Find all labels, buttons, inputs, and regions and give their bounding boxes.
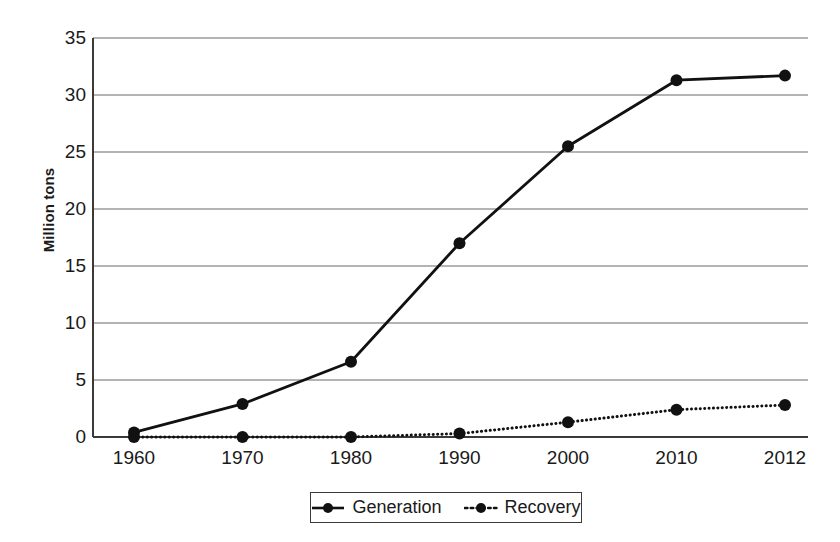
legend-swatch-dotted-icon [464,500,498,516]
x-axis-tick-label: 1980 [311,447,391,469]
data-series-layer [128,70,791,443]
data-point-marker [345,356,357,368]
data-point-marker [562,140,574,152]
chart-container: Million tons 05101520253035 196019701980… [0,0,840,542]
data-point-marker [237,431,249,443]
legend-label-generation: Generation [352,497,441,518]
data-point-marker [671,74,683,86]
data-point-marker [454,428,466,440]
x-axis-tick-label: 1990 [420,447,500,469]
x-axis-tick-label: 1960 [94,447,174,469]
series-generation [128,70,791,439]
x-axis-tick-label: 2012 [745,447,825,469]
legend-entry-recovery[interactable]: Recovery [464,497,581,518]
legend-entry-generation[interactable]: Generation [311,497,441,518]
data-point-marker [779,70,791,82]
chart-legend: Generation Recovery [310,492,582,523]
series-line [134,76,785,433]
data-point-marker [237,398,249,410]
legend-label-recovery: Recovery [505,497,581,518]
x-axis-tick-label: 2010 [637,447,717,469]
legend-swatch-solid-icon [311,500,345,516]
x-axis-tick-label: 2000 [528,447,608,469]
data-point-marker [671,404,683,416]
data-point-marker [454,237,466,249]
data-point-marker [128,431,140,443]
data-point-marker [562,416,574,428]
x-axis-tick-label: 1970 [203,447,283,469]
data-point-marker [779,399,791,411]
gridlines [93,38,808,380]
data-point-marker [345,431,357,443]
axis-lines [93,38,808,437]
